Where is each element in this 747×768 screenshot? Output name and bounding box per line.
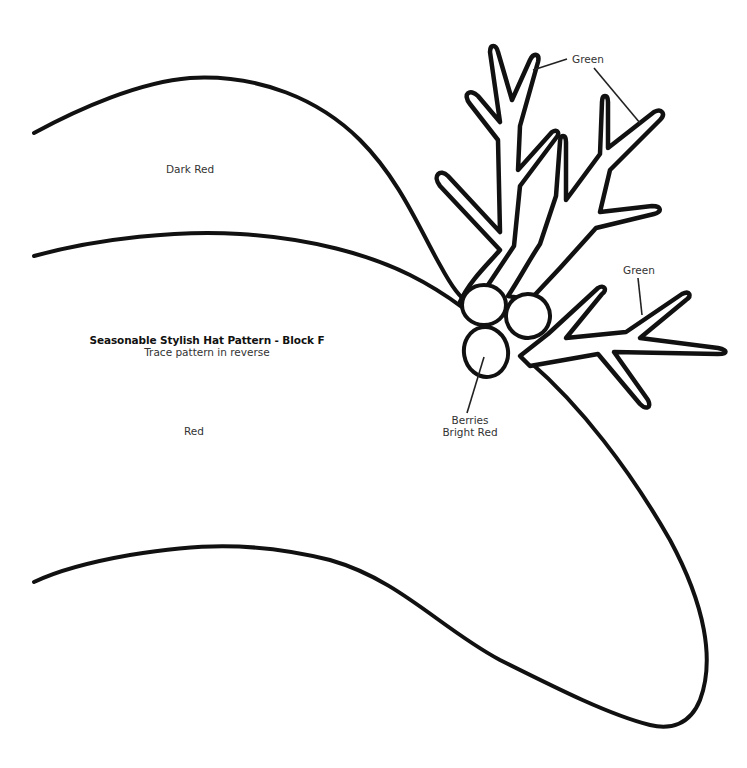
pattern-title: Seasonable Stylish Hat Pattern - Block F — [82, 334, 332, 346]
band-divider-edge — [34, 233, 466, 310]
region-label-red: Red — [184, 425, 204, 437]
right-edge — [34, 362, 707, 727]
callout-berries-line2: Bright Red — [440, 426, 500, 438]
callout-berries: Berries Bright Red — [440, 414, 500, 438]
region-label-dark-red: Dark Red — [166, 163, 214, 175]
pattern-subtitle: Trace pattern in reverse — [82, 346, 332, 358]
lower-sprig — [520, 287, 726, 408]
leader-green-right — [638, 278, 642, 315]
berry-bottom — [460, 324, 512, 381]
callout-green-top: Green — [572, 53, 604, 65]
upper-band-top-edge — [34, 78, 470, 304]
berry-top-left — [462, 285, 506, 325]
pattern-drawing — [0, 0, 747, 768]
callout-green-right: Green — [623, 264, 655, 276]
pattern-title-block: Seasonable Stylish Hat Pattern - Block F… — [82, 334, 332, 358]
callout-berries-line1: Berries — [440, 414, 500, 426]
